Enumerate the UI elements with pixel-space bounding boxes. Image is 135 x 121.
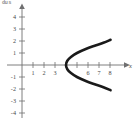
- y-axis-arrow-icon: [19, 4, 25, 10]
- x-axis-label: x: [128, 62, 132, 69]
- x-tick-label: 3: [53, 69, 56, 76]
- x-tick-label: 1: [31, 69, 34, 76]
- y-tick-label: -3: [11, 97, 16, 104]
- y-tick-label: 4: [13, 13, 16, 20]
- x-tick-label: 7: [97, 69, 100, 76]
- y-tick-label: -4: [11, 109, 16, 116]
- x-axis: [7, 62, 130, 68]
- y-tick-label: 3: [13, 25, 16, 32]
- graph-figure: du s: [0, 0, 135, 121]
- y-tick-label: 2: [13, 37, 16, 44]
- x-tick-label: 2: [42, 69, 45, 76]
- coordinate-plane: 1 2 3 6 7 8 4 3 2 1 -1 -2 -3 -4 x: [0, 0, 135, 121]
- x-tick-label: 8: [108, 69, 111, 76]
- y-tick-label: -2: [11, 85, 16, 92]
- y-tick-label: -1: [11, 73, 16, 80]
- x-tick-label: 6: [86, 69, 89, 76]
- y-tick-label: 1: [13, 49, 16, 56]
